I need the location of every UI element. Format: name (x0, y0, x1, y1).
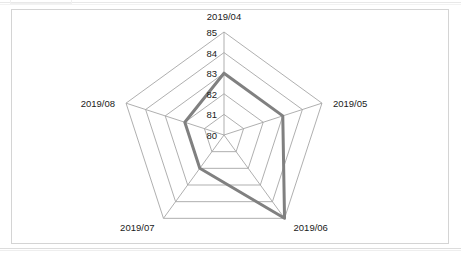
radar-chart-svg: 858483828180 2019/042019/052019/062019/0… (12, 10, 450, 245)
category-label-2019-05: 2019/05 (333, 98, 367, 109)
category-label-2019-08: 2019/08 (81, 98, 115, 109)
document-tab-stub (10, 0, 72, 4)
category-label-2019-07: 2019/07 (120, 222, 154, 233)
radial-tick-label-85: 85 (206, 27, 217, 38)
radial-tick-label-81: 81 (206, 109, 217, 120)
document-rule-bottom (0, 248, 461, 249)
radial-tick-label-82: 82 (206, 89, 217, 100)
radar-spoke-2019-06 (224, 135, 285, 218)
document-rule-bottom-secondary (0, 250, 461, 251)
radar-series-polygon (185, 73, 285, 218)
category-label-2019-04: 2019/04 (207, 11, 241, 22)
radar-series-line (185, 73, 285, 218)
radial-tick-label-83: 83 (206, 68, 217, 79)
chart-object-frame[interactable]: 858483828180 2019/042019/052019/062019/0… (11, 9, 449, 244)
radar-chart-plot-area: 858483828180 2019/042019/052019/062019/0… (12, 10, 450, 245)
category-label-2019-06: 2019/06 (294, 222, 328, 233)
radar-axis-spokes (126, 32, 322, 218)
document-rule-top-secondary (0, 4, 461, 5)
radial-tick-label-80: 80 (206, 130, 217, 141)
radial-tick-label-84: 84 (206, 48, 217, 59)
